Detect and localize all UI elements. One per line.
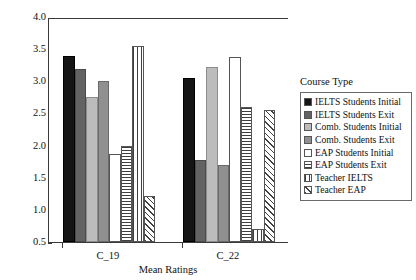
bar [264, 110, 276, 242]
y-axis-tick-label: 2.0 [0, 141, 46, 151]
bar-group [49, 19, 169, 242]
legend-item: Comb. Students Initial [304, 121, 409, 134]
bar [75, 69, 87, 242]
legend-box: IELTS Students InitialIELTS Students Exi… [300, 92, 412, 201]
bar [109, 154, 121, 242]
legend-item-label: IELTS Students Exit [315, 110, 394, 120]
bar [195, 160, 207, 242]
legend-item: Teacher EAP [304, 184, 409, 197]
y-axis-tick-label: 1.0 [0, 205, 46, 215]
legend-item: EAP Students Exit [304, 159, 409, 172]
legend-title: Course Type [300, 76, 412, 88]
legend-item-label: Teacher EAP [315, 185, 366, 195]
y-axis-tick-label: 2.5 [0, 108, 46, 118]
y-axis-tick-label: 3.0 [0, 76, 46, 86]
bars-layer [49, 19, 288, 242]
legend-item: IELTS Students Initial [304, 96, 409, 109]
bar [183, 78, 195, 242]
bar [132, 46, 144, 242]
bar [241, 107, 253, 242]
legend-swatch [304, 123, 312, 131]
legend: Course Type IELTS Students InitialIELTS … [300, 76, 412, 201]
bar [218, 165, 230, 242]
legend-item: Teacher IELTS [304, 172, 409, 185]
legend-swatch [304, 98, 312, 106]
y-axis-tick-mark [48, 243, 52, 244]
bar [63, 56, 75, 242]
legend-item: IELTS Students Exit [304, 109, 409, 122]
bar [121, 146, 133, 242]
y-axis-tick-label: 3.5 [0, 44, 46, 54]
legend-swatch [304, 136, 312, 144]
bar [229, 57, 241, 242]
bar [86, 97, 98, 242]
bar-group [169, 19, 289, 242]
legend-item: Comb. Students Exit [304, 134, 409, 147]
bar [144, 196, 156, 242]
bar-chart: 0.51.01.52.02.53.03.54.0 C_19C_22 Mean R… [0, 0, 416, 280]
x-axis-tick-label: C_19 [68, 250, 148, 261]
legend-item-label: Teacher IELTS [315, 173, 373, 183]
legend-item-label: EAP Students Initial [315, 148, 394, 158]
y-axis-tick-label: 0.5 [0, 237, 46, 247]
legend-item-label: IELTS Students Initial [315, 97, 401, 107]
bar [98, 81, 110, 242]
legend-swatch [304, 111, 312, 119]
x-axis-title: Mean Ratings [48, 264, 288, 275]
legend-swatch [304, 186, 312, 194]
legend-item-label: EAP Students Exit [315, 160, 387, 170]
plot-area [48, 18, 288, 243]
legend-item-label: Comb. Students Exit [315, 135, 395, 145]
legend-item-label: Comb. Students Initial [315, 122, 402, 132]
legend-swatch [304, 149, 312, 157]
bar [206, 67, 218, 242]
legend-swatch [304, 161, 312, 169]
x-axis-tick-label: C_22 [188, 250, 268, 261]
x-axis-tick-mark [62, 243, 63, 248]
bar [252, 229, 264, 242]
legend-item: EAP Students Initial [304, 146, 409, 159]
x-axis-tick-mark [182, 243, 183, 248]
legend-swatch [304, 174, 312, 182]
y-axis-tick-label: 1.5 [0, 173, 46, 183]
y-axis-tick-label: 4.0 [0, 12, 46, 22]
